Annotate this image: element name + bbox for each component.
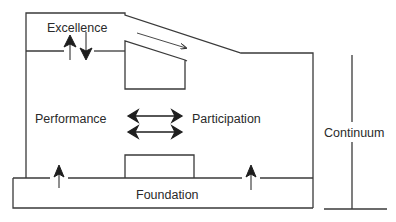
center-block xyxy=(125,155,194,178)
excellence-block xyxy=(125,41,187,89)
label-excellence: Excellence xyxy=(47,21,107,35)
label-performance: Performance xyxy=(35,112,107,126)
label-participation: Participation xyxy=(192,112,261,126)
slope-arrow-icon xyxy=(137,33,186,48)
label-continuum: Continuum xyxy=(324,126,384,140)
label-foundation: Foundation xyxy=(136,188,199,202)
diagram-canvas: Excellence Performance Participation Fou… xyxy=(0,0,396,222)
